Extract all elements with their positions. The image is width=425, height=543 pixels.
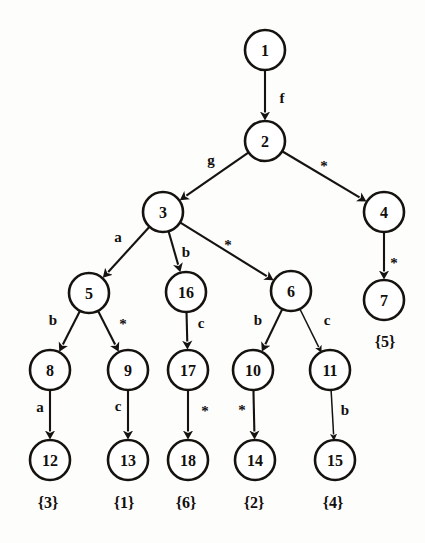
edge-label-n6-to-n10: b — [254, 312, 262, 328]
node-13[interactable]: 13 — [108, 440, 148, 480]
graph-svg: 123451667891710111213181415 fg*ab**b*cbc… — [0, 0, 425, 543]
node-7[interactable]: 7 — [364, 280, 404, 320]
accept-set-label-n13: {1} — [114, 494, 135, 511]
node-12[interactable]: 12 — [30, 440, 70, 480]
edge-label-n4-to-n7: * — [390, 255, 398, 271]
node-label-7: 7 — [380, 292, 388, 309]
edge-n6-to-n10 — [265, 308, 282, 344]
node-9[interactable]: 9 — [108, 350, 148, 390]
edge-n16-to-n17 — [186, 311, 187, 342]
node-4[interactable]: 4 — [364, 192, 404, 232]
node-label-3: 3 — [159, 204, 167, 221]
node-6[interactable]: 6 — [271, 271, 311, 311]
edge-label-n17-to-n18: * — [201, 403, 209, 419]
edge-label-n3-to-n6: * — [224, 237, 232, 253]
edge-n5-to-n8 — [63, 310, 81, 345]
node-2[interactable]: 2 — [245, 121, 285, 161]
node-16[interactable]: 16 — [166, 272, 206, 312]
accept-set-label-n14: {2} — [244, 494, 265, 511]
node-label-2: 2 — [261, 133, 269, 150]
node-label-15: 15 — [327, 452, 343, 469]
edge-label-n2-to-n3: g — [207, 152, 215, 168]
edge-label-n9-to-n13: c — [115, 398, 122, 414]
edge-label-n5-to-n9: * — [119, 316, 127, 332]
edge-label-n2-to-n4: * — [320, 158, 328, 174]
accept-set-label-n18: {6} — [176, 494, 197, 511]
edge-label-n3-to-n16: b — [182, 244, 190, 260]
edge-n3-to-n6 — [179, 222, 267, 276]
node-label-4: 4 — [380, 204, 388, 221]
node-label-14: 14 — [247, 452, 263, 469]
tree-diagram-canvas: 123451667891710111213181415 fg*ab**b*cbc… — [0, 0, 425, 543]
edge-label-n5-to-n8: b — [49, 312, 57, 328]
node-15[interactable]: 15 — [315, 440, 355, 480]
node-label-13: 13 — [120, 452, 136, 469]
edge-label-n3-to-n5: a — [114, 229, 122, 245]
node-3[interactable]: 3 — [143, 192, 183, 232]
edge-n10-to-n14 — [253, 389, 254, 432]
edge-n11-to-n15 — [331, 389, 334, 435]
edge-label-n10-to-n14: * — [238, 402, 246, 418]
edge-n5-to-n9 — [98, 310, 116, 345]
edge-label-n6-to-n11: c — [324, 312, 331, 328]
node-18[interactable]: 18 — [168, 440, 208, 480]
node-5[interactable]: 5 — [69, 273, 109, 313]
edge-n2-to-n3 — [186, 152, 249, 196]
node-1[interactable]: 1 — [245, 30, 285, 70]
node-14[interactable]: 14 — [235, 440, 275, 480]
node-label-8: 8 — [46, 362, 54, 379]
accept-set-label-n7: {5} — [375, 333, 396, 350]
accept-set-label-n15: {4} — [323, 494, 344, 511]
accept-set-label-n12: {3} — [38, 494, 59, 511]
node-label-11: 11 — [322, 362, 337, 379]
node-label-18: 18 — [180, 452, 196, 469]
node-label-16: 16 — [178, 284, 194, 301]
node-17[interactable]: 17 — [168, 350, 208, 390]
node-label-17: 17 — [180, 362, 196, 379]
edge-label-n1-to-n2: f — [280, 90, 286, 106]
node-11[interactable]: 11 — [310, 350, 350, 390]
node-label-9: 9 — [124, 362, 132, 379]
node-label-1: 1 — [261, 42, 269, 59]
node-label-12: 12 — [42, 452, 58, 469]
edge-n6-to-n11 — [299, 308, 318, 347]
node-label-10: 10 — [245, 362, 261, 379]
edge-n3-to-n16 — [168, 230, 178, 264]
node-label-6: 6 — [287, 283, 295, 300]
node-label-5: 5 — [85, 285, 93, 302]
edge-label-n11-to-n15: b — [341, 402, 349, 418]
node-8[interactable]: 8 — [30, 350, 70, 390]
node-10[interactable]: 10 — [233, 350, 273, 390]
edge-label-n16-to-n17: c — [198, 315, 205, 331]
edge-label-n8-to-n12: a — [36, 399, 44, 415]
